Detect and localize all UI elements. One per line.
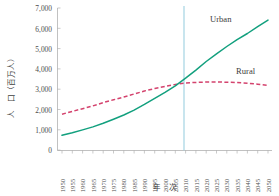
y-tick-label: 3,000 [35, 85, 52, 94]
population-line-chart: 人 口（百万人） 7,000 6,000 5,000 4,000 3,000 2… [0, 0, 279, 196]
x-tick-label: 2035 [234, 178, 241, 192]
x-tick-label: 1950 [59, 178, 66, 192]
x-tick-label: 1970 [100, 178, 107, 192]
x-tick-label: 1965 [90, 178, 97, 192]
x-tick-label: 1955 [69, 178, 76, 192]
y-tick-label: 2,000 [35, 106, 52, 115]
x-tick-label: 1960 [79, 178, 86, 192]
y-tick-label: 4,000 [35, 65, 52, 74]
x-tick-label: 2045 [254, 178, 261, 192]
rural-series-label: Rural [236, 66, 256, 76]
y-tick-label: 1,000 [35, 126, 52, 135]
y-axis-ticks [58, 8, 61, 150]
urban-series-label: Urban [210, 14, 232, 24]
y-tick-label: 7,000 [35, 4, 52, 13]
x-axis-title: 年 次 [153, 182, 177, 192]
x-tick-label: 2040 [244, 178, 251, 192]
y-tick-label: 5,000 [35, 45, 52, 54]
x-tick-label: 2015 [193, 178, 200, 192]
chart-svg: 人 口（百万人） 7,000 6,000 5,000 4,000 3,000 2… [0, 0, 279, 196]
x-tick-label: 2025 [213, 178, 220, 192]
x-tick-label: 1980 [120, 178, 127, 192]
urban-series-line [62, 20, 268, 135]
x-tick-label: 1985 [131, 178, 138, 192]
x-tick-label: 2010 [182, 178, 189, 192]
x-axis-ticks [62, 151, 268, 154]
y-axis-title: 人 口（百万人） [7, 54, 16, 118]
y-tick-label: 6,000 [35, 25, 52, 34]
x-tick-label: 1990 [141, 178, 148, 192]
x-tick-label: 2020 [203, 178, 210, 192]
x-tick-label: 2030 [223, 178, 230, 192]
x-tick-label: 2050 [265, 178, 272, 192]
x-tick-label: 1975 [110, 178, 117, 192]
rural-series-line [62, 82, 268, 114]
y-tick-label: 0 [48, 146, 52, 155]
y-axis-tick-labels: 7,000 6,000 5,000 4,000 3,000 2,000 1,00… [35, 4, 52, 155]
